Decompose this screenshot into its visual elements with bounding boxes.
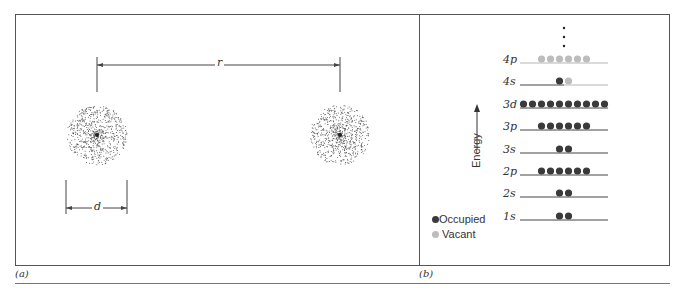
vacant-state-icon xyxy=(565,77,572,84)
occupied-electron-icon xyxy=(556,212,563,219)
energy-level-3s xyxy=(520,145,608,153)
level-label-2s: 2s xyxy=(503,187,516,200)
occupied-electron-icon xyxy=(529,100,536,107)
occupied-electron-icon xyxy=(556,167,563,174)
occupied-electron-icon xyxy=(556,145,563,152)
level-label-4p: 4p xyxy=(503,53,517,66)
ellipsis-dot-icon xyxy=(563,36,565,38)
level-label-2p: 2p xyxy=(503,165,517,178)
occupied-electron-icon xyxy=(583,122,590,129)
occupied-electron-icon xyxy=(574,100,581,107)
energy-level-3p xyxy=(520,122,608,130)
occupied-electron-icon xyxy=(601,100,608,107)
occupied-electron-icon xyxy=(556,77,563,84)
occupied-electron-icon xyxy=(574,167,581,174)
occupied-electron-icon xyxy=(565,189,572,196)
level-label-3p: 3p xyxy=(503,120,517,133)
energy-level-3d xyxy=(520,100,608,108)
occupied-electron-icon xyxy=(574,122,581,129)
occupied-electron-icon xyxy=(547,167,554,174)
ellipsis-dot-icon xyxy=(563,45,565,47)
level-label-4s: 4s xyxy=(503,75,516,88)
energy-level-1s xyxy=(520,212,608,220)
occupied-electron-icon xyxy=(565,145,572,152)
occupied-electron-icon xyxy=(583,167,590,174)
vacant-state-icon xyxy=(574,55,581,62)
occupied-electron-icon xyxy=(565,100,572,107)
energy-level-4s xyxy=(520,77,608,85)
legend-occupied: Occupied xyxy=(432,213,485,225)
occupied-electron-icon xyxy=(538,122,545,129)
energy-axis-label: Energy xyxy=(470,133,482,168)
energy-level-2p xyxy=(520,167,608,175)
energy-level-diagram xyxy=(0,0,677,291)
occupied-dot-icon xyxy=(432,216,439,223)
occupied-electron-icon xyxy=(583,100,590,107)
vacant-state-icon xyxy=(556,55,563,62)
energy-level-2s xyxy=(520,189,608,197)
energy-level-4p xyxy=(520,55,608,63)
occupied-electron-icon xyxy=(565,167,572,174)
occupied-electron-icon xyxy=(592,100,599,107)
level-label-3d: 3d xyxy=(503,98,517,111)
ellipsis-dot-icon xyxy=(563,27,565,29)
occupied-electron-icon xyxy=(556,122,563,129)
legend-vacant: Vacant xyxy=(432,228,476,240)
occupied-electron-icon xyxy=(556,100,563,107)
occupied-electron-icon xyxy=(565,122,572,129)
vacant-dot-icon xyxy=(432,231,439,238)
occupied-electron-icon xyxy=(538,100,545,107)
occupied-electron-icon xyxy=(538,167,545,174)
vacant-state-icon xyxy=(538,55,545,62)
occupied-electron-icon xyxy=(556,189,563,196)
occupied-electron-icon xyxy=(547,122,554,129)
occupied-electron-icon xyxy=(520,100,527,107)
occupied-electron-icon xyxy=(565,212,572,219)
legend-occupied-label: Occupied xyxy=(439,213,485,225)
occupied-electron-icon xyxy=(547,100,554,107)
legend-vacant-label: Vacant xyxy=(442,228,475,240)
vacant-state-icon xyxy=(565,55,572,62)
level-label-3s: 3s xyxy=(503,143,516,156)
vacant-state-icon xyxy=(547,55,554,62)
vacant-state-icon xyxy=(583,55,590,62)
level-label-1s: 1s xyxy=(503,210,516,223)
